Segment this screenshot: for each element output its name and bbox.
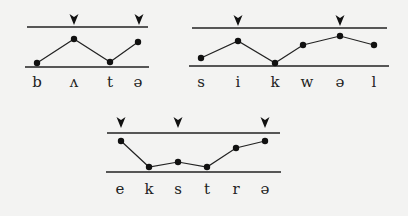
contour-points	[198, 33, 377, 66]
stress-arrow-icon	[70, 14, 79, 25]
segment-label: ʌ	[69, 73, 79, 91]
contour-point	[34, 60, 40, 66]
segment-label: k	[144, 180, 154, 198]
segment-label: r	[232, 180, 240, 198]
stress-arrow-icon	[174, 117, 183, 128]
diagram-extra: e k s t r ə	[106, 117, 281, 198]
segment-label: w	[301, 73, 314, 91]
diagram-sequel: s i k w ə l	[189, 15, 389, 91]
contour-line	[37, 39, 138, 63]
segment-label: k	[270, 73, 280, 91]
contour-point	[135, 39, 141, 45]
stress-arrow-icon	[117, 117, 126, 128]
segment-label: b	[32, 73, 42, 91]
contour-point	[300, 42, 306, 48]
segment-labels: b ʌ t ə	[32, 73, 142, 91]
segment-label: ə	[336, 73, 345, 91]
contour-point	[272, 60, 278, 66]
contour-point	[71, 36, 77, 42]
contour-point	[337, 33, 343, 39]
contour-point	[235, 38, 241, 44]
segment-label: s	[174, 180, 182, 198]
stress-arrow-icon	[234, 15, 243, 26]
segment-label: s	[197, 73, 205, 91]
contour-point	[175, 159, 181, 165]
contour-diagrams: b ʌ t ə s i k w ə l e k s t r	[0, 0, 408, 216]
contour-point	[371, 42, 377, 48]
segment-labels: s i k w ə l	[197, 73, 376, 91]
contour-point	[146, 164, 152, 170]
segment-label: e	[116, 180, 125, 198]
contour-point	[233, 145, 239, 151]
contour-line	[121, 141, 265, 167]
contour-points	[118, 138, 268, 170]
contour-point	[198, 55, 204, 61]
segment-label: l	[372, 73, 377, 91]
segment-label: i	[236, 73, 241, 91]
segment-label: t	[204, 180, 210, 198]
contour-line	[201, 36, 374, 63]
stress-markers	[117, 117, 270, 128]
stress-arrow-icon	[261, 117, 270, 128]
stress-markers	[234, 15, 345, 26]
segment-label: ə	[134, 73, 143, 91]
contour-point	[262, 138, 268, 144]
stress-arrow-icon	[135, 14, 144, 25]
segment-label: t	[107, 73, 113, 91]
contour-point	[204, 164, 210, 170]
contour-point	[107, 59, 113, 65]
diagram-butter: b ʌ t ə	[25, 14, 149, 91]
segment-labels: e k s t r ə	[116, 180, 270, 198]
segment-label: ə	[261, 180, 270, 198]
stress-arrow-icon	[336, 15, 345, 26]
contour-point	[118, 138, 124, 144]
stress-markers	[70, 14, 144, 25]
